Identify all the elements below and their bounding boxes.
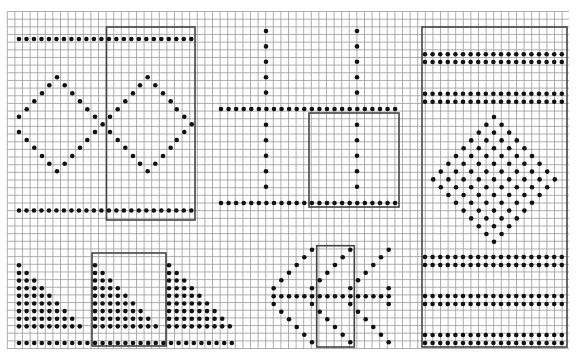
triangle-2-dot (131, 316, 136, 321)
right-filled-diamond-dot (499, 154, 504, 159)
triangle-3-dot (167, 294, 172, 299)
middle-cross-row-1-dot (317, 107, 322, 112)
triangle-3-dot (167, 263, 172, 268)
right-row-4b-dot (461, 302, 466, 307)
right-row-5b-dot (468, 341, 473, 346)
triangle-3-dot (197, 309, 202, 314)
right-row-3a-dot (446, 255, 451, 260)
right-row-1a-dot (560, 52, 565, 57)
right-row-4b-dot (446, 302, 451, 307)
bottom-middle-chevrons-dot (287, 317, 292, 322)
bottom-left-base-row-dot (93, 341, 98, 346)
triangle-2-dot (108, 324, 113, 329)
cross-col-left-lower-dot (264, 122, 269, 127)
middle-cross-row-2-dot (310, 201, 315, 206)
right-filled-diamond-dot (446, 177, 451, 182)
triangle-1-dot (24, 309, 29, 314)
right-row-2a-dot (560, 91, 565, 96)
triangle-2-dot (116, 324, 121, 329)
right-row-3b-dot (544, 263, 549, 268)
triangle-1-dot (24, 294, 29, 299)
left-diamond-1-dot (70, 154, 75, 159)
right-row-3a-dot (461, 255, 466, 260)
top-left-top-row-dot (17, 37, 22, 42)
right-filled-diamond-dot (492, 146, 497, 151)
bottom-left-base-row-dot (32, 341, 37, 346)
bottom-left-base-row-dot (222, 341, 227, 346)
right-filled-diamond-dot (515, 185, 520, 190)
right-row-2b-dot (552, 99, 557, 104)
middle-cross-row-2-dot (234, 201, 239, 206)
middle-cross-row-1-dot (310, 107, 315, 112)
middle-cross-row-2-dot (279, 201, 284, 206)
right-filled-diamond-dot (446, 193, 451, 198)
triangle-1-dot (24, 316, 29, 321)
right-row-5a-dot (446, 333, 451, 338)
right-filled-diamond-dot (484, 201, 489, 206)
bottom-middle-chevrons-dot (279, 309, 284, 314)
triangle-1-dot (32, 324, 37, 329)
right-row-2a-dot (438, 91, 443, 96)
right-row-1a-dot (468, 52, 473, 57)
middle-cross-row-1-dot (264, 107, 269, 112)
right-row-2a-dot (522, 91, 527, 96)
triangle-1-dot (17, 278, 22, 283)
right-filled-diamond-dot (469, 201, 474, 206)
right-filled-diamond-dot (484, 138, 489, 143)
right-filled-diamond-dot (461, 208, 466, 213)
triangle-1-dot (32, 286, 37, 291)
triangle-2-dot (100, 324, 105, 329)
triangle-3-dot (190, 316, 195, 321)
right-filled-diamond-dot (484, 232, 489, 237)
left-diamond-2-dot (123, 145, 128, 150)
right-row-1b-dot (430, 60, 435, 65)
triangle-2-dot (154, 324, 159, 329)
triangle-3-dot (197, 316, 202, 321)
right-row-3b-dot (453, 263, 458, 268)
triangle-2-dot (116, 316, 121, 321)
top-left-bottom-row-dot (181, 208, 186, 213)
cross-col-left-upper-dot (264, 90, 269, 95)
triangle-3-dot (174, 324, 179, 329)
right-row-5b-dot (484, 341, 489, 346)
bottom-middle-chevrons-dot (348, 286, 353, 291)
right-row-5b-dot (476, 341, 481, 346)
middle-cross-row-1-dot (370, 107, 375, 112)
cross-col-left-upper-dot (264, 75, 269, 80)
triangle-3-dot (167, 316, 172, 321)
bottom-middle-chevrons-dot (271, 302, 276, 307)
triangle-1-dot (55, 301, 60, 306)
triangle-2-dot (100, 294, 105, 299)
right-filled-diamond-dot (545, 185, 550, 190)
left-diamond-2-dot (153, 161, 158, 166)
right-row-4b-dot (438, 302, 443, 307)
triangle-1-dot (47, 309, 52, 314)
right-row-2a-dot (499, 91, 504, 96)
bottom-left-base-row-dot (116, 341, 121, 346)
right-filled-diamond-dot (492, 162, 497, 167)
triangle-3-dot (174, 271, 179, 276)
right-row-4a-dot (468, 294, 473, 299)
right-row-4a-dot (529, 294, 534, 299)
right-filled-diamond-dot (530, 154, 535, 159)
right-row-4a-dot (491, 294, 496, 299)
top-left-bottom-row-dot (122, 208, 127, 213)
right-filled-diamond-dot (477, 130, 482, 135)
right-filled-diamond-dot (530, 185, 535, 190)
right-filled-diamond-dot (507, 224, 512, 229)
right-filled-diamond-dot (499, 185, 504, 190)
right-row-1a-dot (453, 52, 458, 57)
right-row-1b-dot (552, 60, 557, 65)
right-row-4a-dot (552, 294, 557, 299)
bottom-left-base-row-dot (176, 341, 181, 346)
right-row-5a-dot (430, 333, 435, 338)
triangle-1-dot (40, 324, 45, 329)
middle-cross-row-1-dot (340, 107, 345, 112)
triangle-2-dot (100, 301, 105, 306)
right-row-4b-dot (560, 302, 565, 307)
cross-col-left-upper-dot (264, 60, 269, 65)
triangle-2-dot (93, 263, 98, 268)
right-filled-diamond-dot (522, 208, 527, 213)
right-filled-diamond-dot (469, 138, 474, 143)
triangle-3-dot (220, 324, 225, 329)
